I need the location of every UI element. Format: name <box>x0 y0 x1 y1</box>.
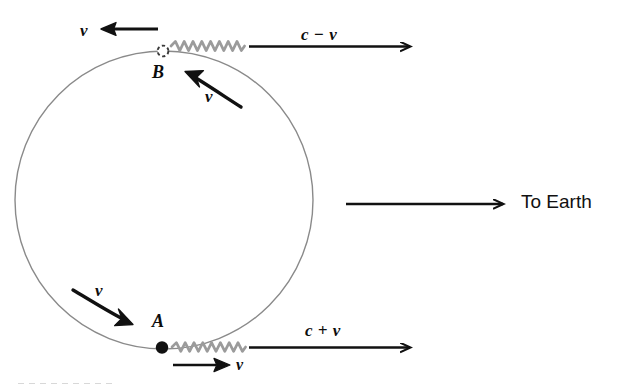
light-wave-bottom <box>172 343 246 352</box>
point-a-marker <box>156 341 168 353</box>
label-velocity-bottom: v <box>236 357 243 373</box>
label-velocity-top-left: v <box>80 22 88 39</box>
circular-orbit-path <box>15 51 313 349</box>
velocity-arrow-top-left-head <box>101 23 116 36</box>
velocity-arrow-bottom-head <box>214 358 230 371</box>
label-c-plus-v: c + v <box>305 322 341 339</box>
tangential-velocity-arrow-upper <box>196 78 241 107</box>
label-velocity-lower-tangent: v <box>95 282 103 299</box>
label-velocity-upper-tangent: v <box>205 88 213 105</box>
label-point-b: B <box>152 63 164 81</box>
light-wave-top <box>171 41 245 50</box>
label-to-earth: To Earth <box>521 192 592 211</box>
label-c-minus-v: c − v <box>301 26 337 43</box>
diagram-canvas: v c − v v B A v c + v v To Earth <box>0 0 628 386</box>
point-b-marker <box>158 46 169 57</box>
label-point-a: A <box>152 312 164 330</box>
tangential-velocity-arrow-upper-head <box>185 71 204 87</box>
